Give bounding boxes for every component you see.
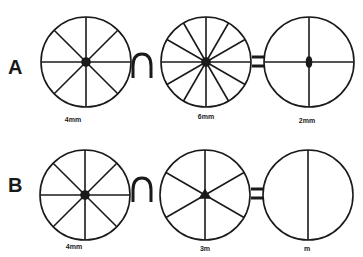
row-b-circle-3 <box>263 150 353 240</box>
caption-b-3: m <box>304 245 310 252</box>
intersection-symbol-a <box>133 54 151 78</box>
center-dot-icon <box>81 191 89 199</box>
row-label-a: A <box>8 57 22 77</box>
intersection-symbol-b <box>133 178 151 202</box>
row-a-circle-3 <box>264 17 354 107</box>
row-label-b: B <box>8 175 22 195</box>
caption-a-1: 4mm <box>65 116 81 123</box>
center-dot-icon <box>82 58 90 66</box>
row-b-circle-2 <box>160 150 250 240</box>
center-triangle-icon <box>200 190 210 198</box>
symmetry-diagram <box>0 0 363 257</box>
caption-b-2: 3m <box>200 245 210 252</box>
row-a-circle-1 <box>41 17 131 107</box>
caption-a-3: 2mm <box>299 117 315 124</box>
center-ellipse-icon <box>307 57 312 67</box>
equals-symbol-b <box>251 189 263 198</box>
equals-symbol-a <box>252 57 264 66</box>
caption-b-1: 4mm <box>66 243 82 250</box>
row-a-circle-2 <box>161 17 251 107</box>
center-dot-icon <box>202 58 210 66</box>
row-b-circle-1 <box>40 150 130 240</box>
caption-a-2: 6mm <box>198 113 214 120</box>
